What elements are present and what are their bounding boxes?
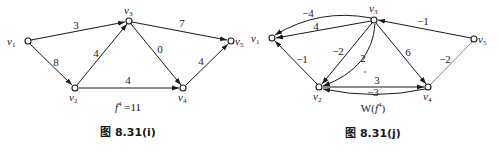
edge-v4-v5: −2	[430, 42, 472, 85]
diagram-canvas: 3 8 4 7 0 4 4 v1	[0, 0, 498, 152]
stray-dot	[364, 71, 366, 73]
edge-label: 0	[157, 43, 163, 55]
node-label: v2	[69, 91, 78, 105]
edge-label: 7	[179, 17, 185, 29]
edge-label: 2	[360, 52, 366, 64]
edge-v4-v2-curved: −3	[323, 86, 425, 98]
edge-label: −1	[296, 53, 308, 65]
edge-v3-v4: 6	[376, 23, 426, 84]
edge-label: −3	[367, 86, 379, 98]
edge-v1-v3: 3	[31, 19, 125, 40]
node-label: v1	[251, 32, 260, 46]
edge-label: −1	[417, 15, 429, 27]
node-v5: v5	[471, 33, 487, 47]
figure-j: −4 4 −1 −2 2 6 −1	[251, 2, 487, 140]
node-v2: v2	[313, 84, 322, 104]
edge-label: 4	[93, 47, 99, 59]
node-v2: v2	[69, 85, 78, 105]
node-v5: v5	[228, 35, 244, 49]
node-v1: v1	[7, 35, 31, 49]
edge-label: 6	[405, 46, 411, 58]
node-v3: v3	[124, 4, 133, 24]
edge-v2-v4: 4	[79, 74, 179, 88]
edge-label: 8	[53, 56, 59, 68]
node-v4: v4	[178, 85, 187, 105]
node-label: v4	[423, 90, 432, 104]
edge-label: 3	[374, 74, 380, 86]
node-v4: v4	[423, 84, 432, 104]
edge-v2-v1: −1	[275, 41, 317, 84]
edge-v3-v1-straight: 4	[276, 20, 371, 38]
edge-v3-v1-curved: −4	[275, 7, 371, 35]
flow-value: f4 =11	[115, 100, 141, 113]
edge-label: −4	[302, 7, 314, 19]
figure-caption: 图 8.31(i)	[100, 126, 156, 139]
edge-v2-v3: 4	[77, 24, 127, 85]
node-label: v3	[369, 2, 378, 16]
edge-v4-v5: 4	[186, 44, 228, 85]
edge-label: 4	[125, 74, 131, 86]
figure-caption: 图 8.31(j)	[345, 127, 401, 140]
edge-label: 4	[198, 55, 204, 67]
node-label: v4	[178, 91, 187, 105]
node-v1: v1	[251, 32, 275, 46]
weight-graph-label: W(f4)	[361, 101, 386, 115]
edge-v1-v2: 8	[30, 44, 72, 85]
node-label: v5	[235, 35, 244, 49]
node-label: v3	[124, 4, 133, 18]
edge-label: 3	[73, 19, 79, 31]
node-label: v2	[313, 90, 322, 104]
edge-v3-v5: 7	[132, 17, 227, 40]
node-label: v5	[478, 33, 487, 47]
figure-i: 3 8 4 7 0 4 4 v1	[7, 4, 244, 139]
node-v3: v3	[369, 2, 378, 23]
edge-label: 4	[313, 20, 319, 32]
edge-v5-v3: −1	[378, 15, 471, 38]
edge-label: −2	[332, 45, 344, 57]
edge-label: −2	[439, 53, 451, 65]
node-label: v1	[7, 35, 16, 49]
edge-v3-v4: 0	[131, 24, 181, 85]
edge-v3-v2-curved: 2	[323, 24, 375, 86]
